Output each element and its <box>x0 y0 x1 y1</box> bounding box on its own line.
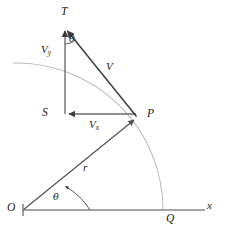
label-point-O: O <box>7 202 15 214</box>
label-vector-vx-subscript: x <box>96 123 99 132</box>
label-point-T: T <box>61 6 67 18</box>
radius-arc <box>13 63 163 210</box>
vector-diagram-figure: T θ Vy V S P Vx r θ O Q x <box>0 0 227 232</box>
label-axis-x: x <box>207 200 212 211</box>
origin-angle-arc <box>66 187 91 211</box>
label-point-P: P <box>147 108 154 120</box>
label-vector-v: V <box>106 61 113 72</box>
label-vector-vy: Vy <box>41 44 51 56</box>
label-vector-vy-subscript: y <box>48 48 51 57</box>
label-point-Q: Q <box>166 213 174 225</box>
label-vector-vy-base: V <box>41 43 48 55</box>
label-angle-theta-bottom: θ <box>53 192 59 202</box>
label-angle-theta-top: θ <box>69 34 75 44</box>
label-radius-r: r <box>83 162 87 173</box>
diagram-canvas <box>0 0 227 232</box>
label-point-S: S <box>42 107 48 119</box>
velocity-vector <box>68 31 137 117</box>
label-vector-vx-base: V <box>89 118 96 130</box>
label-vector-vx: Vx <box>89 119 99 131</box>
